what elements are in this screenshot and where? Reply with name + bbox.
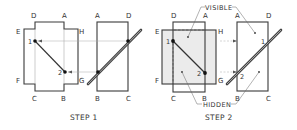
- step1-front-outline: [24, 22, 78, 91]
- step2-side-label-D: D: [266, 12, 271, 20]
- hidden-annotation: HIDDEN: [203, 101, 231, 109]
- step2-label-E: E: [155, 28, 159, 36]
- step2-point-2: [203, 71, 207, 75]
- step2-label-F: F: [155, 77, 159, 85]
- step2-label-A: A: [203, 12, 208, 20]
- step2-label-G: G: [218, 77, 223, 85]
- step1-rod-highlight: [88, 30, 141, 84]
- step1-side-label-C: C: [126, 95, 131, 103]
- step2-side-label-point-1: 1: [261, 38, 265, 46]
- step1-label-A: A: [62, 12, 67, 20]
- visible-annotation: VISIBLE: [205, 4, 232, 12]
- step1-side-label-B: B: [95, 95, 100, 103]
- arrow-icon: [38, 40, 42, 43]
- step2-label-point-2: 2: [197, 70, 201, 78]
- step1-side-point-1: [126, 39, 130, 43]
- step2-label-D: D: [171, 12, 176, 20]
- step1-point-1: [33, 39, 37, 43]
- step1-label-B: B: [61, 95, 66, 103]
- step1-label-H: H: [79, 28, 84, 36]
- step1-label-C: C: [32, 95, 37, 103]
- step1-label-E: E: [16, 28, 20, 36]
- step1-caption: STEP 1: [70, 113, 98, 122]
- step1-group: D A E H F G C B 1 2 A D B C STEP 1: [16, 12, 141, 122]
- step2-side-label-C: C: [266, 95, 271, 103]
- intersection-diagram: D A E H F G C B 1 2 A D B C STEP 1: [0, 0, 297, 130]
- step2-caption: STEP 2: [205, 113, 233, 122]
- step2-side-label-point-2: 2: [240, 73, 244, 81]
- step1-side-label-D: D: [126, 12, 131, 20]
- step1-label-point-2: 2: [58, 69, 62, 77]
- step2-side-label-A: A: [235, 12, 240, 20]
- step1-point-2: [63, 70, 67, 74]
- visible-leader-right: [232, 7, 255, 33]
- step2-label-B: B: [202, 95, 207, 103]
- arrow-icon: [68, 71, 72, 74]
- step1-label-F: F: [16, 77, 20, 85]
- step1-label-G: G: [79, 77, 84, 85]
- arrow-icon: [233, 40, 237, 43]
- step1-label-D: D: [31, 12, 36, 20]
- step1-line-1-2: [35, 41, 65, 72]
- step2-label-C: C: [171, 95, 176, 103]
- step1-side-point-2: [96, 70, 100, 74]
- step2-group: VISIBLE HIDDEN D A E H F G C B 1 2 A D B…: [155, 4, 281, 123]
- step2-label-point-1: 1: [166, 38, 170, 46]
- step1-side-label-A: A: [95, 12, 100, 20]
- step1-side-rect: [97, 22, 128, 91]
- step2-point-1: [171, 39, 175, 43]
- step1-label-point-1: 1: [28, 38, 32, 46]
- step2-rod-highlight: [227, 30, 281, 84]
- step2-side-label-B: B: [235, 95, 240, 103]
- step2-label-H: H: [218, 28, 223, 36]
